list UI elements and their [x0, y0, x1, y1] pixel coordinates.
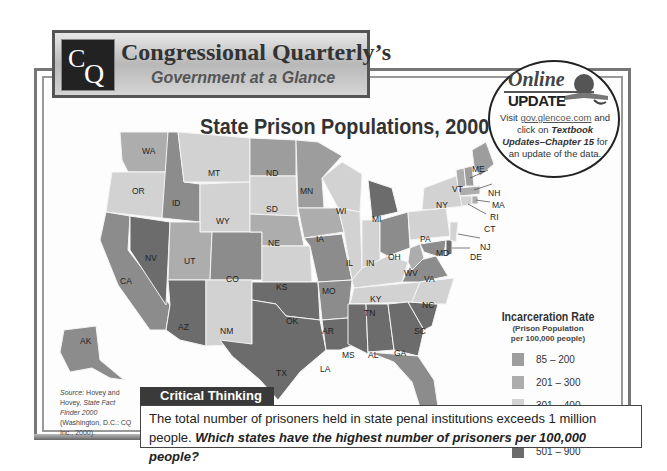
- svg-text:WY: WY: [216, 216, 230, 226]
- svg-text:CT: CT: [484, 224, 495, 234]
- online-update-text: Visit gov.glencoe.com and click on Textb…: [498, 112, 612, 160]
- critical-thinking-box: The total number of prisoners held in st…: [140, 405, 642, 448]
- svg-text:OR: OR: [132, 186, 145, 196]
- svg-text:VA: VA: [424, 274, 435, 284]
- svg-text:MS: MS: [342, 350, 355, 360]
- svg-text:ND: ND: [266, 168, 278, 178]
- legend-title: Incarceration Rate: [497, 310, 599, 324]
- svg-text:ME: ME: [472, 164, 485, 174]
- online-update-badge: Online UPDATE Visit gov.glencoe.com and …: [488, 60, 620, 178]
- svg-text:VT: VT: [452, 184, 463, 194]
- svg-text:NJ: NJ: [480, 242, 490, 252]
- svg-text:NY: NY: [436, 200, 448, 210]
- svg-text:NV: NV: [145, 253, 157, 263]
- svg-text:WI: WI: [336, 206, 346, 216]
- svg-text:TN: TN: [364, 308, 375, 318]
- svg-text:LA: LA: [320, 364, 331, 374]
- svg-text:IA: IA: [316, 234, 324, 244]
- svg-text:NM: NM: [220, 326, 233, 336]
- update-word: UPDATE: [508, 92, 566, 109]
- legend-swatch: [512, 353, 524, 366]
- svg-text:DE: DE: [470, 252, 482, 262]
- svg-text:SC: SC: [414, 326, 426, 336]
- state-co: [210, 232, 262, 280]
- legend-subtitle-1: (Prison Population: [488, 324, 608, 334]
- svg-text:KY: KY: [370, 294, 382, 304]
- state-az: [166, 280, 206, 346]
- svg-text:NH: NH: [488, 188, 500, 198]
- svg-text:TX: TX: [276, 368, 287, 378]
- state-nm: [206, 280, 252, 346]
- svg-text:IL: IL: [346, 258, 353, 268]
- svg-text:SD: SD: [266, 204, 278, 214]
- svg-text:PA: PA: [420, 234, 431, 244]
- svg-text:MI: MI: [372, 214, 381, 224]
- svg-text:NC: NC: [422, 300, 434, 310]
- svg-text:CA: CA: [120, 276, 132, 286]
- svg-text:MO: MO: [322, 286, 336, 296]
- state-nj: [450, 222, 458, 242]
- svg-text:WV: WV: [404, 268, 418, 278]
- svg-text:MA: MA: [492, 200, 505, 210]
- svg-text:NE: NE: [268, 238, 280, 248]
- svg-text:AL: AL: [368, 350, 379, 360]
- svg-text:OK: OK: [286, 316, 299, 326]
- svg-text:UT: UT: [184, 256, 195, 266]
- svg-text:ID: ID: [172, 198, 181, 208]
- source-citation: Source: Hovey and Hovey, State Fact Find…: [60, 388, 132, 438]
- svg-text:OH: OH: [388, 252, 401, 262]
- svg-text:MD: MD: [436, 248, 449, 258]
- svg-text:AR: AR: [322, 326, 334, 336]
- critical-thinking-tab: Critical Thinking: [140, 387, 274, 405]
- state-ks: [262, 246, 312, 282]
- state-ak: [60, 326, 124, 380]
- svg-text:CO: CO: [226, 274, 239, 284]
- state-ct: [460, 196, 472, 206]
- legend-item: 85 – 200: [512, 348, 608, 371]
- svg-text:AZ: AZ: [178, 322, 189, 332]
- svg-text:MN: MN: [300, 186, 313, 196]
- legend-item: 201 – 300: [512, 371, 608, 394]
- glencoe-link[interactable]: gov.glencoe.com: [520, 112, 591, 123]
- svg-text:GA: GA: [394, 348, 407, 358]
- state-oh: [380, 212, 410, 256]
- svg-text:KS: KS: [276, 282, 288, 292]
- state-mi: [368, 180, 398, 218]
- globe-book-icon: [562, 70, 612, 110]
- svg-text:RI: RI: [490, 212, 499, 222]
- svg-text:AK: AK: [80, 336, 92, 346]
- svg-text:IN: IN: [366, 258, 375, 268]
- online-word: Online: [508, 68, 565, 91]
- legend-swatch: [512, 376, 524, 389]
- svg-text:WA: WA: [142, 146, 156, 156]
- svg-text:MT: MT: [208, 168, 220, 178]
- legend-subtitle-2: per 100,000 people): [488, 334, 608, 344]
